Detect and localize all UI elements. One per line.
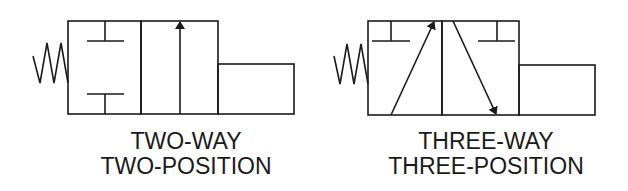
blocked-port-left-icon bbox=[372, 21, 410, 41]
caption-three-way-line2: THREE-POSITION bbox=[376, 155, 596, 178]
solenoid-icon bbox=[218, 64, 294, 114]
valve-symbols-diagram: TWO-WAY TWO-POSITION THREE-WAY THREE-POS… bbox=[0, 0, 628, 191]
envelope-position-1 bbox=[368, 21, 442, 115]
blocked-port-bottom-icon bbox=[87, 94, 124, 114]
envelope-position-2 bbox=[442, 21, 519, 115]
two-way-two-position-symbol bbox=[33, 21, 294, 114]
three-way-three-position-symbol bbox=[334, 21, 595, 115]
flow-arrow-diagonal-up-icon bbox=[391, 22, 434, 115]
solenoid-icon bbox=[519, 65, 595, 115]
spring-icon bbox=[334, 44, 368, 84]
blocked-port-top-icon bbox=[87, 21, 124, 41]
caption-two-way-line2: TWO-POSITION bbox=[86, 155, 286, 178]
blocked-port-right-icon bbox=[478, 21, 515, 41]
flow-arrow-diagonal-down-icon bbox=[453, 21, 496, 114]
caption-three-way-line1: THREE-WAY bbox=[376, 130, 596, 153]
caption-two-way-line1: TWO-WAY bbox=[86, 130, 286, 153]
spring-icon bbox=[33, 43, 68, 83]
